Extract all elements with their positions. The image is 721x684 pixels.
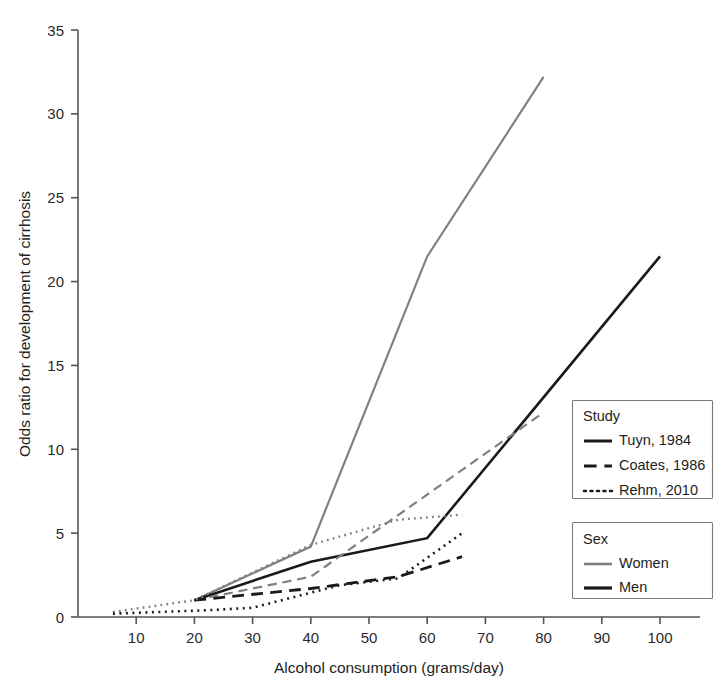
x-tick-label: 20 (186, 629, 203, 646)
x-axis-ticks: 102030405060708090100 (128, 617, 673, 646)
y-tick-label: 25 (47, 189, 64, 206)
legend-sex-label: Women (619, 555, 669, 571)
x-tick-label: 40 (302, 629, 319, 646)
x-tick-label: 70 (477, 629, 494, 646)
y-tick-label: 30 (47, 105, 64, 122)
y-tick-label: 20 (47, 273, 64, 290)
series-line (194, 412, 543, 600)
x-tick-label: 80 (535, 629, 552, 646)
y-tick-label: 10 (47, 441, 64, 458)
y-tick-label: 0 (56, 609, 64, 626)
chart-canvas: 05101520253035 102030405060708090100 Odd… (0, 0, 721, 684)
y-tick-label: 5 (56, 525, 64, 542)
series-line (194, 77, 543, 600)
x-tick-label: 50 (361, 629, 378, 646)
chart-figure: 05101520253035 102030405060708090100 Odd… (0, 0, 721, 684)
y-tick-label: 35 (47, 22, 64, 39)
y-tick-label: 15 (47, 357, 64, 374)
legend-study-label: Rehm, 2010 (619, 482, 698, 498)
legend-study-label: Tuyn, 1984 (619, 432, 691, 448)
legend-study: Study Tuyn, 1984Coates, 1986Rehm, 2010 (573, 401, 713, 499)
x-tick-label: 90 (593, 629, 610, 646)
y-axis-title: Odds ratio for development of cirrhosis (16, 191, 33, 457)
x-tick-label: 10 (128, 629, 145, 646)
x-tick-label: 100 (647, 629, 672, 646)
legend-sex: Sex WomenMen (573, 523, 713, 599)
y-axis-ticks: 05101520253035 (47, 22, 78, 626)
legend-study-title: Study (583, 408, 621, 424)
x-tick-label: 30 (244, 629, 261, 646)
legend-study-label: Coates, 1986 (619, 457, 705, 473)
x-tick-label: 60 (419, 629, 436, 646)
legend-sex-label: Men (619, 579, 647, 595)
legend-sex-title: Sex (583, 531, 609, 547)
x-axis-title: Alcohol consumption (grams/day) (274, 659, 504, 676)
